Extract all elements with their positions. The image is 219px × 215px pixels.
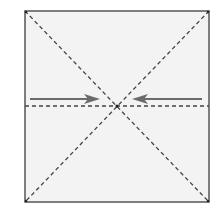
fold-diagram	[0, 0, 219, 215]
corner-dot-bl	[25, 200, 27, 202]
center-point	[116, 105, 119, 108]
corner-dot-tr	[207, 11, 209, 13]
corner-dot-tl	[25, 11, 27, 13]
corner-dot-br	[207, 200, 209, 202]
